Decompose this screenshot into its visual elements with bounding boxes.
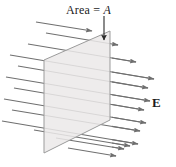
area-label-prefix: Area = — [66, 3, 103, 17]
field-line-arrowhead — [112, 72, 154, 79]
figure-canvas — [0, 0, 176, 167]
field-line — [36, 22, 92, 31]
electric-field-lines-front — [112, 44, 154, 156]
electric-field-label: E — [152, 96, 161, 109]
electric-flux-figure: Area = A E — [0, 0, 176, 167]
field-line-arrowhead — [112, 117, 146, 123]
field-line-arrowhead — [112, 105, 144, 110]
field-line-arrowhead — [112, 44, 118, 45]
field-line-arrowhead — [112, 155, 116, 156]
area-label: Area = A — [66, 4, 111, 16]
field-line-arrowhead — [112, 143, 130, 146]
area-label-symbol: A — [103, 3, 111, 17]
field-line — [68, 148, 116, 156]
surface-parallelogram — [44, 31, 110, 153]
field-line-arrowhead — [112, 58, 136, 62]
field-line-arrowhead — [112, 147, 124, 149]
field-line-arrowhead — [112, 82, 148, 88]
field-line-arrowhead — [112, 95, 150, 101]
field-line-arrowhead — [112, 126, 140, 131]
